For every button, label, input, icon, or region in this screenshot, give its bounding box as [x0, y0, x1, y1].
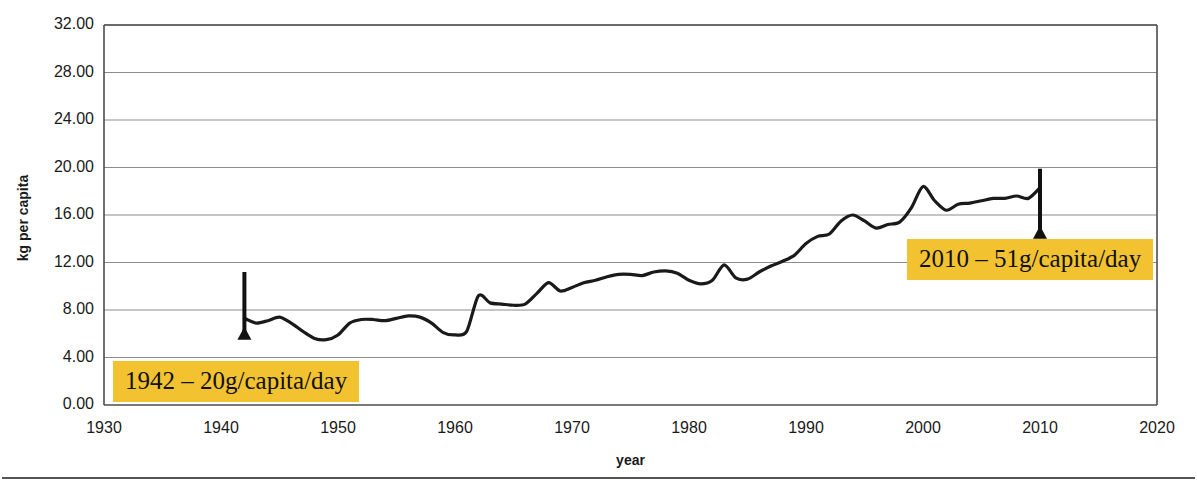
- annotation-callout-1942: 1942 – 20g/capita/day: [113, 361, 359, 402]
- x-tick-label: 2000: [883, 419, 963, 437]
- arrow-1942: [237, 272, 251, 340]
- y-tick-label: 0.00: [22, 395, 94, 413]
- x-tick-label: 1970: [532, 419, 612, 437]
- y-tick-label: 4.00: [22, 348, 94, 366]
- x-axis-title: year: [104, 452, 1157, 468]
- y-tick-label: 20.00: [22, 158, 94, 176]
- footer-divider: [2, 477, 1195, 479]
- x-tick-label: 1950: [298, 419, 378, 437]
- x-tick-label: 1940: [181, 419, 261, 437]
- x-tick-label: 2010: [1000, 419, 1080, 437]
- y-tick-label: 28.00: [22, 63, 94, 81]
- gridlines: [104, 25, 1157, 358]
- x-tick-label: 1980: [649, 419, 729, 437]
- y-tick-label: 16.00: [22, 205, 94, 223]
- x-tick-label: 1930: [64, 419, 144, 437]
- arrow-2010: [1033, 169, 1047, 239]
- x-tick-label: 1960: [415, 419, 495, 437]
- y-tick-label: 32.00: [22, 15, 94, 33]
- annotation-callout-2010: 2010 – 51g/capita/day: [907, 239, 1153, 280]
- y-tick-label: 24.00: [22, 110, 94, 128]
- y-tick-label: 12.00: [22, 253, 94, 271]
- chart-figure: kg per capita 0.004.008.0012.0016.0020.0…: [0, 0, 1197, 487]
- x-tick-label: 1990: [766, 419, 846, 437]
- y-tick-label: 8.00: [22, 300, 94, 318]
- x-tick-label: 2020: [1117, 419, 1197, 437]
